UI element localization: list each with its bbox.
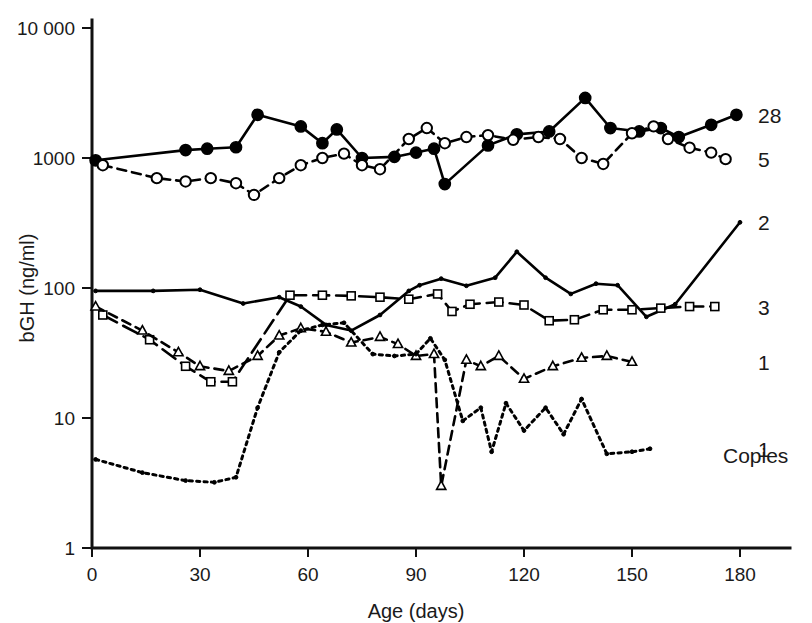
data-point-marker: [405, 295, 413, 303]
data-point-marker: [410, 147, 421, 158]
data-point-marker: [443, 358, 447, 362]
chart-container: 110100100010 0000306090120150180bGH (ng/…: [0, 0, 812, 623]
data-point-marker: [594, 282, 598, 286]
x-tick-label: 150: [616, 564, 648, 585]
data-point-marker: [483, 130, 493, 140]
series-28: [90, 92, 742, 189]
data-point-marker: [465, 284, 469, 288]
data-point-marker: [628, 306, 636, 314]
data-point-marker: [504, 401, 508, 405]
data-point-marker: [663, 134, 673, 144]
data-point-marker: [357, 160, 367, 170]
data-point-marker: [317, 153, 327, 163]
x-tick-label: 180: [724, 564, 756, 585]
data-point-marker: [371, 352, 375, 356]
data-point-marker: [522, 429, 526, 433]
series-2: [94, 220, 742, 332]
data-point-marker: [274, 173, 284, 183]
data-point-marker: [673, 131, 684, 142]
data-point-marker: [376, 293, 384, 301]
data-point-marker: [195, 361, 204, 369]
data-point-marker: [141, 471, 145, 475]
data-point-marker: [198, 288, 202, 292]
data-point-marker: [375, 332, 384, 340]
data-point-marker: [375, 164, 385, 174]
data-point-marker: [206, 173, 216, 183]
series-legend-label-4: 1: [758, 351, 770, 374]
data-point-marker: [202, 143, 213, 154]
series-3: [99, 290, 719, 386]
data-point-marker: [213, 480, 217, 484]
axis-labels: 110100100010 0000306090120150180bGH (ng/…: [16, 18, 788, 622]
data-point-marker: [429, 349, 438, 357]
series-path: [96, 222, 740, 330]
data-point-marker: [437, 481, 446, 489]
data-point-marker: [520, 301, 528, 309]
y-axis-title: bGH (ng/ml): [16, 234, 38, 343]
data-point-marker: [94, 289, 98, 293]
data-point-marker: [418, 283, 422, 287]
data-point-marker: [555, 134, 565, 144]
data-point-marker: [277, 295, 281, 299]
data-point-marker: [228, 378, 236, 386]
data-point-marker: [648, 447, 652, 451]
data-point-marker: [493, 276, 497, 280]
y-tick-label: 1: [64, 538, 75, 559]
data-point-marker: [580, 397, 584, 401]
data-point-marker: [393, 354, 397, 358]
data-point-marker: [580, 92, 591, 103]
data-point-marker: [673, 302, 677, 306]
data-point-marker: [657, 304, 665, 312]
data-point-marker: [286, 291, 294, 299]
data-point-marker: [461, 132, 471, 142]
data-point-marker: [515, 250, 519, 254]
data-point-marker: [562, 432, 566, 436]
y-tick-label: 10 000: [17, 18, 75, 39]
data-point-marker: [706, 147, 716, 157]
data-point-marker: [630, 450, 634, 454]
x-axis-title: Age (days): [368, 600, 465, 622]
data-point-marker: [605, 122, 616, 133]
data-point-marker: [207, 378, 215, 386]
data-point-marker: [295, 121, 306, 132]
x-tick-label: 120: [508, 564, 540, 585]
data-point-marker: [439, 277, 443, 281]
data-point-marker: [347, 292, 355, 300]
axis-lines: [92, 20, 790, 548]
data-point-marker: [339, 148, 349, 158]
data-point-marker: [599, 306, 607, 314]
data-point-marker: [256, 406, 260, 410]
data-point-marker: [495, 298, 503, 306]
data-point-marker: [479, 406, 483, 410]
data-point-marker: [404, 134, 414, 144]
x-tick-label: 0: [87, 564, 98, 585]
y-tick-label: 100: [43, 278, 75, 299]
series-lines: [90, 92, 742, 489]
data-point-marker: [317, 138, 328, 149]
x-tick-label: 30: [189, 564, 210, 585]
data-point-marker: [684, 143, 694, 153]
y-tick-label: 1000: [33, 148, 75, 169]
series-5: [98, 121, 731, 200]
data-point-marker: [440, 138, 450, 148]
data-point-marker: [706, 119, 717, 130]
data-point-marker: [645, 315, 649, 319]
data-point-marker: [508, 135, 518, 145]
data-point-marker: [184, 479, 188, 483]
data-point-marker: [434, 290, 442, 298]
data-point-marker: [180, 176, 190, 186]
series-legend-label-2: 2: [758, 211, 770, 234]
data-point-marker: [277, 350, 281, 354]
data-point-marker: [299, 305, 303, 309]
data-point-marker: [598, 159, 608, 169]
series-1b: [94, 321, 652, 484]
data-point-marker: [318, 291, 326, 299]
chart-svg: 110100100010 0000306090120150180bGH (ng/…: [0, 0, 812, 623]
data-point-marker: [462, 355, 471, 363]
data-point-marker: [321, 323, 325, 327]
data-point-marker: [439, 178, 450, 189]
data-point-marker: [180, 145, 191, 156]
data-point-marker: [602, 351, 611, 359]
data-point-marker: [99, 311, 107, 319]
data-point-marker: [720, 154, 730, 164]
